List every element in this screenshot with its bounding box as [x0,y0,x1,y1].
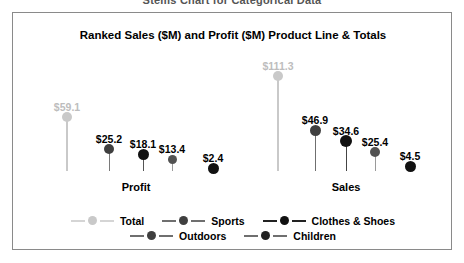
data-point-label: $25.2 [96,133,122,145]
data-point-marker[interactable] [62,112,72,122]
data-point-marker[interactable] [138,149,149,160]
legend-item[interactable]: Clothes & Shoes [263,215,395,227]
group-axis-label: Profit [122,181,151,193]
data-point-label: $46.9 [302,114,328,126]
data-point-marker[interactable] [168,155,177,164]
data-point-marker[interactable] [405,161,416,172]
legend-line-icon [273,235,287,237]
data-point-marker[interactable] [104,144,114,154]
legend-line-icon [263,220,277,222]
legend-marker-icon [280,216,289,225]
data-point-label: $34.6 [333,125,359,137]
legend-row: OutdoorsChildren [13,228,453,243]
chart-screenshot: Stems Chart for Categorical Data Ranked … [0,0,464,263]
data-point-label: $18.1 [130,138,156,150]
legend-marker-icon [88,216,97,225]
legend-line-icon [292,220,306,222]
legend-item[interactable]: Total [71,215,144,227]
cutoff-caption: Stems Chart for Categorical Data [0,0,464,6]
legend-line-icon [71,220,85,222]
stem-line [277,76,279,171]
stem-line [66,117,68,171]
legend-label: Outdoors [179,230,226,242]
legend-line-icon [130,235,144,237]
legend-line-icon [162,220,176,222]
legend-line-icon [159,235,173,237]
legend-item[interactable]: Sports [162,215,244,227]
legend-line-icon [100,220,114,222]
stem-line [315,130,316,171]
data-point-marker[interactable] [208,163,219,174]
legend-item[interactable]: Outdoors [130,230,226,242]
legend-row: TotalSportsClothes & Shoes [13,213,453,228]
legend-line-icon [191,220,205,222]
legend-label: Clothes & Shoes [312,215,395,227]
legend-marker-icon [261,231,270,240]
data-point-marker[interactable] [273,71,283,81]
chart-frame: Ranked Sales ($M) and Profit ($M) Produc… [12,12,452,250]
data-point-label: $59.1 [54,101,80,113]
legend-marker-icon [179,216,188,225]
legend-label: Children [293,230,336,242]
group-axis-label: Sales [332,181,361,193]
legend-label: Total [120,215,144,227]
data-point-label: $13.4 [159,143,185,155]
legend-label: Sports [211,215,244,227]
data-point-label: $111.3 [263,60,294,72]
data-point-label: $2.4 [203,152,223,164]
legend-item[interactable]: Children [244,230,336,242]
chart-legend: TotalSportsClothes & ShoesOutdoorsChildr… [13,213,453,243]
data-point-marker[interactable] [370,147,380,157]
legend-marker-icon [147,231,156,240]
data-point-marker[interactable] [310,125,321,136]
data-point-label: $4.5 [400,150,420,162]
data-point-label: $25.4 [362,136,388,148]
legend-line-icon [244,235,258,237]
